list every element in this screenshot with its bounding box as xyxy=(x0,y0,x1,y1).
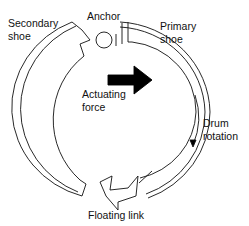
anchor-label: Anchor xyxy=(87,10,120,23)
drum-rotation-label: Drum rotation xyxy=(203,117,238,143)
floating-link-label: Floating link xyxy=(88,209,144,222)
drum-rotation-arrow xyxy=(190,95,199,147)
secondary-shoe xyxy=(12,22,90,196)
drum-brake-diagram: Secondary shoe Anchor Primary shoe Actua… xyxy=(0,0,249,226)
drum-outline xyxy=(120,22,210,198)
primary-shoe-label: Primary shoe xyxy=(160,20,196,46)
actuating-force-label: Actuating force xyxy=(82,88,126,114)
floating-link xyxy=(100,176,138,210)
anchor-pin xyxy=(96,32,112,48)
primary-shoe xyxy=(122,22,196,183)
secondary-shoe-label: Secondary shoe xyxy=(8,17,58,43)
